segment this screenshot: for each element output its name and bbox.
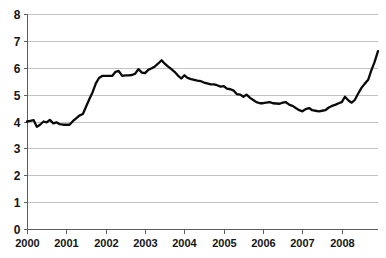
x-tick-label-2001: 2001 [54, 237, 78, 249]
x-tick-label-2006: 2006 [251, 237, 275, 249]
line-chart: 012345678 200020012002200320042005200620… [0, 0, 386, 258]
y-tick-label-1: 1 [14, 196, 21, 210]
y-tick-label-3: 3 [14, 142, 21, 156]
y-tick-label-8: 8 [14, 8, 21, 22]
x-tick-label-2000: 2000 [15, 237, 39, 249]
y-tick-label-5: 5 [14, 89, 21, 103]
y-tick-label-0: 0 [14, 223, 21, 237]
x-tick-label-2003: 2003 [133, 237, 157, 249]
x-tick-labels: 200020012002200320042005200620072008 [15, 237, 354, 249]
data-series [27, 51, 378, 127]
y-tick-label-7: 7 [14, 35, 21, 49]
x-tick-label-2005: 2005 [212, 237, 236, 249]
x-tick-label-2007: 2007 [290, 237, 314, 249]
x-tick-label-2008: 2008 [330, 237, 354, 249]
chart-canvas: 012345678 200020012002200320042005200620… [0, 0, 386, 258]
y-tick-label-4: 4 [14, 116, 21, 130]
y-tick-labels: 012345678 [14, 8, 21, 237]
gridlines [27, 15, 378, 203]
y-tick-label-6: 6 [14, 62, 21, 76]
x-tick-label-2002: 2002 [94, 237, 118, 249]
series-line-rate [27, 51, 378, 127]
x-axis [27, 230, 378, 234]
y-tick-label-2: 2 [14, 169, 21, 183]
x-tick-label-2004: 2004 [172, 237, 197, 249]
